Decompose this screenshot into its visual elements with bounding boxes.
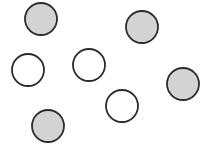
circles-diagram xyxy=(0,0,200,149)
gray-circle-5 xyxy=(167,68,199,100)
gray-circle-2 xyxy=(126,11,158,43)
gray-circle-7 xyxy=(32,110,64,142)
circle-group xyxy=(12,3,199,142)
white-circle-3 xyxy=(12,54,44,86)
white-circle-4 xyxy=(73,49,105,81)
gray-circle-1 xyxy=(25,3,57,35)
white-circle-6 xyxy=(106,90,138,122)
